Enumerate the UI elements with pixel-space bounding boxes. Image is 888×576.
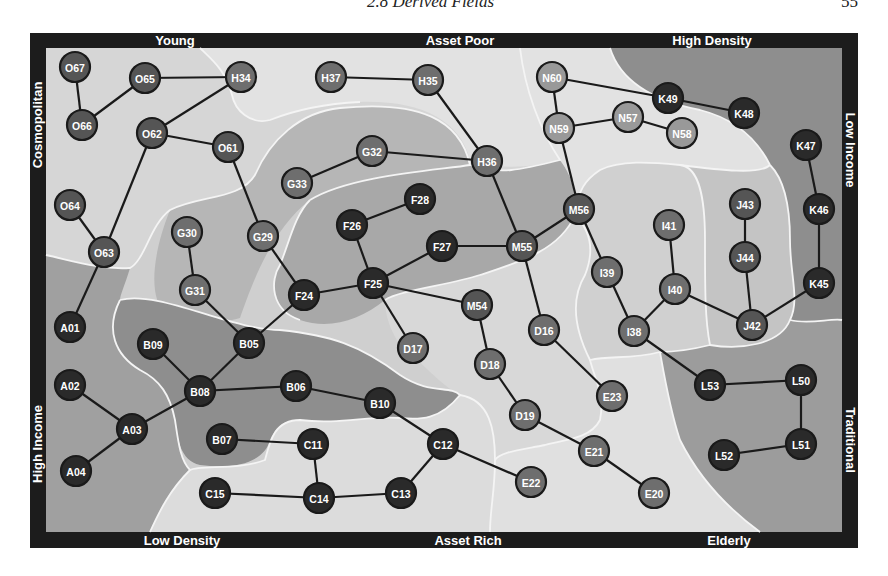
node-i39: I39 — [592, 257, 622, 287]
node-label: C11 — [304, 439, 323, 451]
node-label: F25 — [364, 278, 382, 290]
axis-label-asset-poor: Asset Poor — [426, 33, 495, 48]
node-label: F28 — [411, 194, 429, 206]
node-label: B09 — [143, 339, 162, 351]
node-label: H37 — [321, 72, 340, 84]
node-m56: M56 — [564, 194, 594, 224]
node-i41: I41 — [654, 210, 684, 240]
node-label: L52 — [715, 450, 733, 462]
node-g32: G32 — [357, 136, 387, 166]
node-label: O64 — [60, 200, 80, 212]
node-label: L51 — [792, 439, 810, 451]
node-label: C14 — [309, 493, 328, 505]
node-a01: A01 — [55, 312, 85, 342]
node-o64: O64 — [55, 190, 85, 220]
node-f28: F28 — [405, 184, 435, 214]
node-label: O62 — [142, 128, 162, 140]
node-label: L53 — [701, 380, 719, 392]
node-g29: G29 — [248, 221, 278, 251]
node-n59: N59 — [544, 113, 574, 143]
node-d16: D16 — [529, 315, 559, 345]
node-k49: K49 — [653, 83, 683, 113]
node-a03: A03 — [117, 414, 147, 444]
node-g33: G33 — [282, 168, 312, 198]
node-n60: N60 — [537, 62, 567, 92]
node-label: J42 — [743, 320, 761, 332]
node-label: G33 — [287, 178, 307, 190]
axis-label-high-income: High Income — [30, 405, 45, 483]
node-l53: L53 — [695, 370, 725, 400]
node-e23: E23 — [597, 381, 627, 411]
node-k47: K47 — [791, 130, 821, 160]
node-label: E22 — [522, 477, 541, 489]
node-d18: D18 — [475, 349, 505, 379]
node-b07: B07 — [207, 424, 237, 454]
node-j44: J44 — [730, 242, 760, 272]
node-label: H36 — [477, 156, 496, 168]
node-f26: F26 — [337, 210, 367, 240]
node-b08: B08 — [185, 376, 215, 406]
node-label: O65 — [135, 73, 155, 85]
axis-label-asset-rich: Asset Rich — [434, 533, 501, 548]
node-label: C13 — [391, 488, 410, 500]
node-h37: H37 — [316, 62, 346, 92]
node-label: B06 — [286, 381, 305, 393]
node-k48: K48 — [729, 98, 759, 128]
node-d19: D19 — [510, 400, 540, 430]
node-label: D17 — [403, 343, 422, 355]
node-label: N59 — [549, 123, 568, 135]
node-label: A02 — [60, 380, 79, 392]
node-label: H35 — [418, 75, 437, 87]
node-c14: C14 — [304, 483, 334, 513]
node-label: L50 — [792, 375, 810, 387]
node-label: N60 — [542, 72, 561, 84]
node-label: G31 — [185, 285, 205, 297]
node-a02: A02 — [55, 370, 85, 400]
node-label: K49 — [658, 93, 677, 105]
node-i40: I40 — [660, 274, 690, 304]
node-d17: D17 — [398, 333, 428, 363]
node-c12: C12 — [428, 429, 458, 459]
node-label: F24 — [295, 290, 313, 302]
node-o66: O66 — [67, 110, 97, 140]
node-label: I40 — [668, 284, 683, 296]
node-h34: H34 — [226, 62, 256, 92]
node-label: J43 — [736, 199, 754, 211]
node-a04: A04 — [61, 456, 91, 486]
node-label: D18 — [480, 359, 499, 371]
node-label: A03 — [122, 424, 141, 436]
node-label: I39 — [600, 267, 615, 279]
node-label: O67 — [65, 62, 85, 74]
node-label: J44 — [736, 252, 754, 264]
node-g31: G31 — [180, 275, 210, 305]
node-n58: N58 — [667, 118, 697, 148]
node-c13: C13 — [386, 478, 416, 508]
node-label: M56 — [569, 204, 590, 216]
axis-label-low-income: Low Income — [843, 112, 858, 187]
node-n57: N57 — [613, 102, 643, 132]
node-label: A01 — [60, 322, 79, 334]
node-i38: I38 — [619, 316, 649, 346]
node-label: F26 — [343, 220, 361, 232]
node-c15: C15 — [200, 478, 230, 508]
node-label: E20 — [645, 488, 664, 500]
node-h35: H35 — [413, 65, 443, 95]
node-label: M54 — [467, 300, 488, 312]
node-o61: O61 — [213, 132, 243, 162]
node-m55: M55 — [507, 231, 537, 261]
node-label: B08 — [190, 386, 209, 398]
node-h36: H36 — [472, 146, 502, 176]
node-e21: E21 — [579, 436, 609, 466]
node-label: K46 — [809, 204, 828, 216]
node-b10: B10 — [365, 388, 395, 418]
node-label: I38 — [627, 326, 642, 338]
node-e20: E20 — [639, 478, 669, 508]
node-label: E21 — [585, 446, 604, 458]
node-label: B07 — [212, 434, 231, 446]
axis-label-low-density: Low Density — [144, 533, 221, 548]
axis-label-traditional: Traditional — [843, 407, 858, 473]
node-label: C15 — [205, 488, 224, 500]
node-j43: J43 — [730, 189, 760, 219]
node-label: I41 — [662, 220, 677, 232]
node-label: O66 — [72, 120, 92, 132]
